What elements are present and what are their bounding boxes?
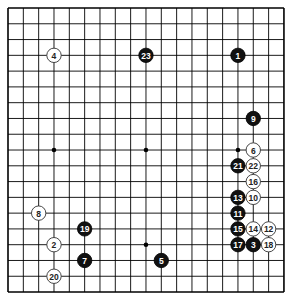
- white-stone-16: 16: [246, 174, 260, 188]
- black-stone-3: 3: [246, 238, 260, 252]
- move-number: 23: [141, 51, 151, 61]
- star-point: [236, 148, 241, 153]
- move-number: 9: [251, 114, 256, 124]
- white-stone-4: 4: [47, 48, 61, 62]
- black-stone-1: 1: [231, 48, 245, 62]
- white-stone-2: 2: [47, 238, 61, 252]
- move-number: 7: [82, 256, 87, 266]
- star-point: [52, 148, 57, 153]
- move-number: 16: [249, 177, 259, 187]
- black-stone-9: 9: [246, 111, 260, 125]
- move-number: 21: [233, 161, 243, 171]
- move-number: 3: [251, 240, 256, 250]
- black-stone-21: 21: [231, 159, 245, 173]
- white-stone-10: 10: [246, 190, 260, 204]
- black-stone-11: 11: [231, 206, 245, 220]
- black-stone-5: 5: [154, 253, 168, 267]
- move-number: 12: [264, 224, 274, 234]
- move-number: 19: [80, 224, 90, 234]
- white-stone-8: 8: [31, 206, 45, 220]
- white-stone-6: 6: [246, 143, 260, 157]
- white-stone-22: 22: [246, 159, 260, 173]
- move-number: 11: [233, 209, 242, 219]
- move-number: 8: [36, 209, 41, 219]
- black-stone-19: 19: [77, 222, 91, 236]
- move-number: 2: [52, 240, 57, 250]
- move-number: 18: [264, 240, 274, 250]
- black-stone-23: 23: [139, 48, 153, 62]
- move-number: 1: [236, 51, 241, 61]
- black-stone-17: 17: [231, 238, 245, 252]
- move-number: 22: [249, 161, 259, 171]
- move-number: 4: [52, 51, 57, 61]
- move-number: 14: [249, 224, 259, 234]
- move-number: 6: [251, 146, 256, 156]
- star-point: [144, 242, 149, 247]
- move-number: 15: [233, 224, 243, 234]
- star-point: [144, 148, 149, 153]
- move-number: 10: [249, 193, 259, 203]
- move-number: 17: [233, 240, 243, 250]
- go-board: 1234567891011121314151617181920212223: [0, 0, 293, 298]
- black-stone-13: 13: [231, 190, 245, 204]
- white-stone-18: 18: [261, 238, 275, 252]
- move-number: 5: [159, 256, 164, 266]
- white-stone-20: 20: [47, 269, 61, 283]
- black-stone-15: 15: [231, 222, 245, 236]
- move-number: 13: [233, 193, 243, 203]
- black-stone-7: 7: [77, 253, 91, 267]
- move-number: 20: [49, 272, 59, 282]
- white-stone-12: 12: [261, 222, 275, 236]
- white-stone-14: 14: [246, 222, 260, 236]
